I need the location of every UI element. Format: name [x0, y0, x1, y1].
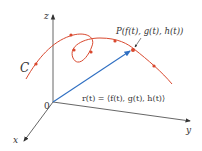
curve-arrow-1: [34, 62, 37, 65]
y-axis: [53, 102, 190, 121]
curve-c: [26, 34, 172, 84]
curve-arrow-5: [113, 39, 116, 42]
point-p: [131, 48, 135, 52]
curve-label: C: [20, 61, 29, 75]
curve-arrow-6: [152, 64, 155, 67]
curve-arrow-2: [69, 33, 72, 36]
curve-arrow-4: [89, 50, 92, 53]
point-pointer: [135, 38, 141, 47]
y-axis-label: y: [185, 125, 192, 135]
z-axis-label: z: [43, 11, 49, 21]
curve-arrow-3: [72, 48, 75, 51]
point-label: P(f(t), g(t), h(t)): [115, 26, 183, 36]
origin-label: 0: [44, 101, 50, 111]
x-axis-label: x: [13, 135, 18, 145]
vector-curve-diagram: z y x 0 C P(f(t), g(t), h(t)) r(t) = ⟨f(…: [0, 0, 202, 151]
vector-label: r(t) = ⟨f(t), g(t), h(t)⟩: [82, 94, 165, 103]
